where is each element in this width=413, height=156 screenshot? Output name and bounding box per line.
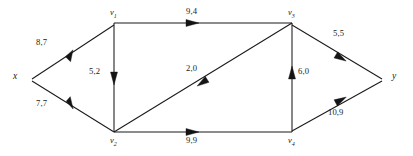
edge-label-v3-y: 5,5 (333, 29, 344, 38)
edge-v1-v2 (111, 23, 118, 132)
edge-label-v2-v3: 2,0 (186, 64, 197, 73)
node-label-y: y (392, 72, 396, 82)
graph-canvas (0, 0, 413, 156)
edge-label-v2-v4: 9,9 (186, 136, 197, 145)
arrow-head-x-v1 (65, 50, 78, 63)
edge-x-v1 (32, 25, 114, 79)
node-label-v2: v2 (110, 136, 117, 147)
node-label-v1: v1 (110, 8, 117, 19)
arrow-head-v1-v2 (111, 72, 118, 85)
edge-label-x-v1: 8,7 (36, 38, 47, 47)
edge-v4-y (292, 81, 382, 131)
edge-v2-v3 (114, 23, 292, 132)
edge-v1-v3 (114, 20, 292, 27)
edge-label-x-v2: 7,7 (36, 99, 47, 108)
edge-v2-v4 (114, 129, 292, 136)
flow-network-figure: x v1 v3 v2 v4 y 8,7 7,7 9,4 5,2 2,0 9,9 … (0, 0, 413, 156)
node-label-x: x (13, 72, 17, 82)
edge-label-v1-v2: 5,2 (89, 67, 100, 76)
arrow-head-v4-v3 (289, 66, 296, 79)
edge-label-v1-v3: 9,4 (186, 7, 197, 16)
arrow-head-v1-v3 (186, 20, 199, 27)
arrow-head-v3-y (334, 52, 348, 64)
node-label-v4: v4 (288, 136, 295, 147)
node-label-v3: v3 (288, 8, 295, 19)
edge-v4-v3 (289, 23, 296, 132)
edge-label-v4-y: 10,9 (328, 108, 343, 117)
edge-label-v4-v3: 6,0 (298, 67, 309, 76)
